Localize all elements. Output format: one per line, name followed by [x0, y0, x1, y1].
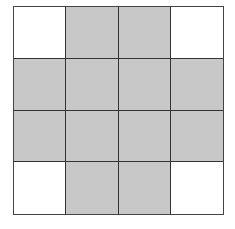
grid-cell-r0-c2	[119, 7, 171, 59]
grid-cell-r3-c1	[66, 162, 118, 214]
grid-cell-r3-c2	[119, 162, 171, 214]
shaded-grid	[13, 6, 224, 215]
grid-cell-r0-c0	[14, 7, 66, 59]
grid-cell-r1-c1	[66, 59, 118, 111]
grid-cell-r2-c0	[14, 111, 66, 163]
grid-cell-r1-c2	[119, 59, 171, 111]
grid-cell-r2-c2	[119, 111, 171, 163]
grid-cell-r1-c3	[171, 59, 223, 111]
grid-cell-r2-c1	[66, 111, 118, 163]
grid-cell-r1-c0	[14, 59, 66, 111]
grid-cell-r0-c1	[66, 7, 118, 59]
grid-cell-r3-c0	[14, 162, 66, 214]
grid-cell-r3-c3	[171, 162, 223, 214]
grid-cell-r2-c3	[171, 111, 223, 163]
grid-cell-r0-c3	[171, 7, 223, 59]
